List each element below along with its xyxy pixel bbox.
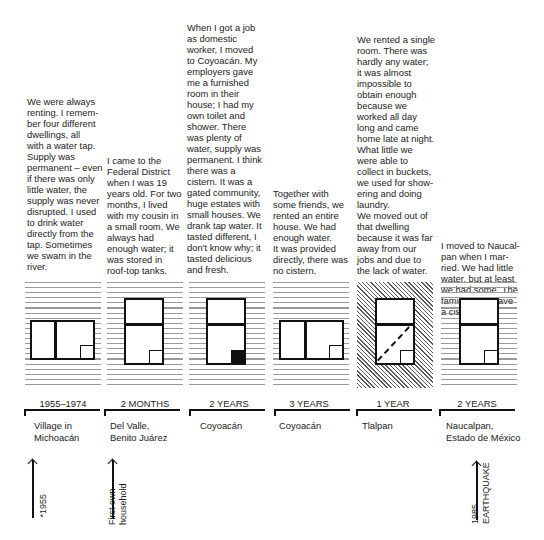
window-icon — [375, 298, 415, 365]
place-label: Tlalpan — [362, 420, 452, 432]
duration-label: 1 YEAR — [354, 398, 432, 409]
place-label: Coyoacán — [279, 420, 369, 432]
story-text: I came to the Federal District when I wa… — [107, 155, 189, 276]
duration-label: 2 YEARS — [438, 398, 516, 409]
duration-label: 1955–1974 — [24, 398, 102, 409]
window-icon — [206, 298, 246, 365]
window-icon — [30, 320, 95, 360]
window-icon — [279, 320, 344, 360]
duration-label: 3 YEARS — [270, 398, 348, 409]
up-arrow-icon — [32, 460, 34, 518]
marker-label: First own household — [107, 455, 128, 525]
marker-label: 1985 EARTHQUAKE — [470, 444, 491, 524]
place-label: Coyoacán — [200, 420, 290, 432]
timeline-bracket — [439, 409, 515, 416]
timeline-bracket — [189, 409, 265, 416]
small-square-icon — [484, 350, 497, 363]
marker-label: *1955 — [38, 458, 49, 518]
timeline-bracket — [274, 409, 350, 416]
window-icon — [459, 298, 499, 365]
small-square-icon — [80, 345, 93, 358]
window-icon — [124, 298, 164, 365]
story-text: Together with some friends, we rented an… — [273, 188, 355, 276]
place-label: Del Valle, Benito Juárez — [110, 420, 200, 443]
small-square-icon — [329, 345, 342, 358]
small-square-icon — [400, 350, 413, 363]
story-text: We rented a single room. There was hardl… — [357, 34, 439, 276]
timeline-bracket — [104, 409, 180, 416]
small-square-icon — [149, 350, 162, 363]
timeline-bracket — [356, 409, 432, 416]
timeline-bracket — [24, 409, 100, 416]
filled-square-icon — [231, 350, 244, 363]
story-text: When I got a job as domestic worker, I m… — [187, 22, 269, 275]
story-text: We were always renting. I remem- ber fou… — [27, 96, 109, 272]
duration-label: 2 YEARS — [190, 398, 268, 409]
duration-label: 2 MONTHS — [106, 398, 184, 409]
place-label: Naucalpan, Estado de México — [446, 420, 536, 443]
